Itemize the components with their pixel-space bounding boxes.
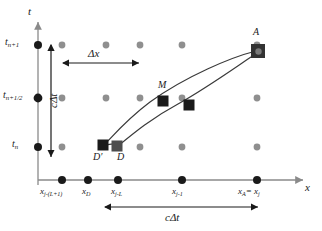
x-tick-x-j-L: xj-L bbox=[111, 187, 122, 197]
c-delta-t-vertical-label: cΔt bbox=[48, 94, 59, 108]
marker-D-prime bbox=[98, 140, 109, 151]
marker-midpoint bbox=[184, 100, 195, 111]
figure-canvas: t x tn tn+1/2 tn+1 xj-(L+1) xD xj-L xj-1… bbox=[0, 0, 322, 231]
delta-x-label: Δx bbox=[88, 48, 99, 59]
x-tick-x-j-L-1: xj-(L+1) bbox=[40, 187, 62, 197]
point-label-A: A bbox=[253, 27, 259, 37]
annotation-arrows bbox=[51, 45, 258, 207]
y-tick-t-n-half: tn+1/2 bbox=[3, 90, 22, 101]
x-tick-x-A-eq-x-j: xA= xj bbox=[238, 187, 260, 197]
x-tick-x-D: xD bbox=[82, 187, 90, 197]
marker-D bbox=[112, 141, 123, 152]
point-label-D: D bbox=[117, 152, 124, 162]
c-delta-t-horizontal-label: cΔt bbox=[165, 212, 179, 223]
point-label-M: M bbox=[158, 80, 166, 90]
point-label-D-prime: D′ bbox=[93, 152, 102, 162]
x-axis-label: x bbox=[305, 182, 310, 193]
y-tick-t-n: tn bbox=[12, 139, 18, 150]
t-axis-label: t bbox=[28, 6, 31, 17]
y-tick-t-n-plus-1: tn+1 bbox=[5, 37, 19, 48]
marker-M bbox=[158, 96, 169, 107]
marker-A-inner-dot bbox=[255, 48, 261, 54]
x-tick-x-j-1: xj-1 bbox=[172, 187, 183, 197]
